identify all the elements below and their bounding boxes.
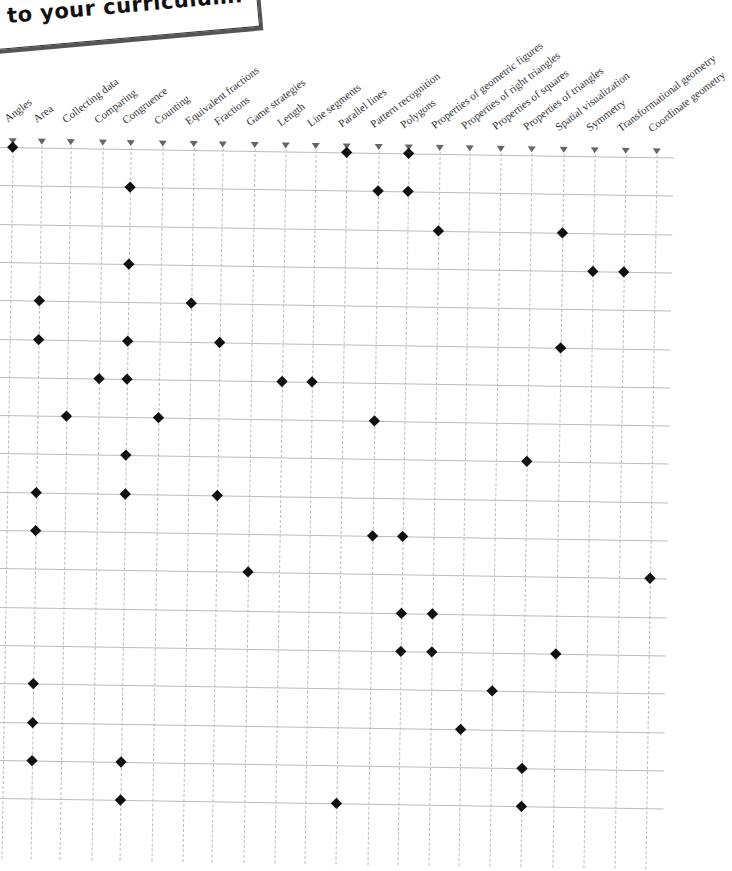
grid-row-line — [0, 147, 674, 159]
topic-mark-diamond — [395, 646, 406, 657]
column-marker-icon — [282, 142, 290, 148]
grid-row-line — [0, 453, 669, 465]
topic-mark-diamond — [557, 227, 568, 238]
grid-column-line — [182, 148, 194, 862]
grid-row-line — [0, 607, 666, 619]
grid-column-line — [304, 150, 316, 864]
topic-mark-diamond — [61, 411, 72, 422]
column-marker-icon — [251, 142, 259, 148]
topic-mark-diamond — [123, 258, 134, 269]
topic-mark-diamond — [153, 412, 164, 423]
column-marker-icon — [99, 140, 107, 146]
column-marker-icon — [560, 147, 568, 153]
grid-column-line — [367, 151, 379, 865]
grid-column-line — [30, 146, 42, 860]
grid-row-line — [0, 645, 666, 657]
topic-mark-diamond — [550, 648, 561, 659]
topic-mark-diamond — [306, 376, 317, 387]
column-marker-icon — [312, 143, 320, 149]
worksheet-page: the Simple to your curriculum. AnglesAre… — [0, 0, 732, 818]
topic-mark-diamond — [433, 225, 444, 236]
topic-mark-diamond — [331, 798, 342, 809]
grid-column-line — [397, 151, 409, 865]
grid-column-line — [335, 150, 347, 864]
grid-column-line — [552, 154, 564, 868]
grid-column-line — [119, 147, 131, 861]
grid-column-line — [59, 146, 71, 860]
topic-mark-diamond — [402, 186, 413, 197]
grid-column-line — [91, 147, 103, 861]
column-marker-icon — [622, 148, 630, 154]
grid-column-line — [274, 150, 286, 864]
topic-mark-diamond — [124, 182, 135, 193]
topic-mark-diamond — [31, 487, 42, 498]
column-marker-icon — [159, 141, 167, 147]
topic-mark-diamond — [30, 525, 41, 536]
topic-mark-diamond — [455, 723, 466, 734]
topic-mark-diamond — [487, 685, 498, 696]
grid-column-line — [489, 153, 501, 867]
topic-mark-diamond — [34, 295, 45, 306]
topic-mark-diamond — [555, 342, 566, 353]
topic-mark-diamond — [186, 298, 197, 309]
grid-column-line — [520, 153, 532, 867]
grid-column-line — [151, 148, 163, 862]
grid-row-line — [0, 683, 665, 695]
column-marker-icon — [497, 146, 505, 152]
column-marker-icon — [436, 145, 444, 151]
grid-row-line — [0, 415, 669, 427]
column-marker-icon — [591, 147, 599, 153]
column-marker-icon — [653, 148, 661, 154]
callout-line-2: to your curriculum. — [6, 0, 244, 28]
column-header: Angles — [2, 96, 34, 124]
grid-column-line — [458, 152, 470, 866]
column-header: Area — [31, 102, 55, 124]
grid-row-line — [0, 760, 664, 772]
topic-mark-diamond — [33, 333, 44, 344]
topic-mark-diamond — [120, 450, 131, 461]
topic-mark-diamond — [397, 531, 408, 542]
topic-mark-diamond — [115, 794, 126, 805]
topic-mark-diamond — [115, 756, 126, 767]
topic-mark-diamond — [276, 376, 287, 387]
grid-column-line — [1, 145, 13, 859]
column-marker-icon — [127, 140, 135, 146]
grid-column-line — [211, 149, 223, 863]
grid-column-line — [428, 152, 440, 866]
topic-mark-diamond — [516, 762, 527, 773]
topic-mark-diamond — [122, 335, 133, 346]
topic-mark-diamond — [26, 755, 37, 766]
column-marker-icon — [528, 146, 536, 152]
topic-mark-diamond — [242, 567, 253, 578]
grid-row-line — [0, 492, 668, 504]
topic-mark-diamond — [369, 415, 380, 426]
topic-mark-diamond — [521, 456, 532, 467]
column-marker-icon — [190, 141, 198, 147]
topic-mark-diamond — [214, 336, 225, 347]
grid-row-line — [0, 530, 668, 542]
grid-row-line — [0, 721, 665, 733]
topic-mark-diamond — [93, 373, 104, 384]
topic-mark-diamond — [587, 266, 598, 277]
topic-mark-diamond — [396, 607, 407, 618]
topic-mark-diamond — [426, 646, 437, 657]
column-marker-icon — [38, 139, 46, 145]
grid-column-line — [583, 154, 595, 868]
topic-mark-diamond — [28, 678, 39, 689]
topic-mark-diamond — [367, 530, 378, 541]
column-marker-icon — [219, 141, 227, 147]
topic-mark-diamond — [27, 716, 38, 727]
topic-mark-diamond — [516, 801, 527, 812]
column-marker-icon — [67, 139, 75, 145]
curriculum-callout-box: the Simple to your curriculum. — [0, 0, 260, 53]
topic-mark-diamond — [644, 573, 655, 584]
topic-mark-diamond — [212, 490, 223, 501]
topic-mark-diamond — [372, 186, 383, 197]
grid-column-line — [243, 149, 255, 863]
grid-column-line — [614, 155, 626, 869]
topic-mark-diamond — [120, 488, 131, 499]
topic-mark-diamond — [121, 373, 132, 384]
topic-mark-diamond — [618, 266, 629, 277]
column-marker-icon — [375, 144, 383, 150]
grid-column-line — [645, 155, 657, 869]
